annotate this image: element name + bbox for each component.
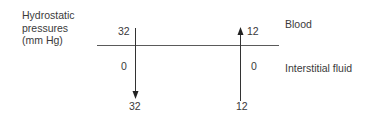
right-blood-value: 12 xyxy=(247,25,259,37)
left-net-value: 32 xyxy=(129,100,141,112)
left-interstitial-value: 0 xyxy=(121,60,127,72)
right-net-value: 12 xyxy=(236,100,248,112)
right-interstitial-value: 0 xyxy=(251,60,257,72)
left-down-arrow-icon xyxy=(133,28,139,99)
blood-label: Blood xyxy=(285,18,312,30)
interstitial-fluid-label: Interstitial fluid xyxy=(285,62,352,74)
left-blood-value: 32 xyxy=(118,25,130,37)
right-up-arrow-icon xyxy=(238,27,244,101)
